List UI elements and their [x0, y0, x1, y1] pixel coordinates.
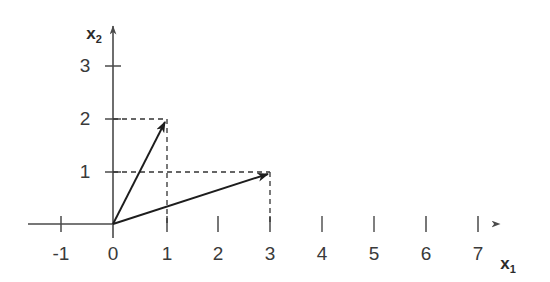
x-tick-label-6: 6	[421, 243, 432, 264]
x-tick-label-neg1: -1	[53, 243, 70, 264]
x-axis-label-subscript: 1	[510, 263, 516, 275]
y-tick-label-3: 3	[80, 55, 91, 76]
x-tick-label-2: 2	[213, 243, 224, 264]
vector-3-1	[113, 174, 268, 224]
projection-guides-group	[113, 119, 270, 224]
x-axis-label: x1	[500, 254, 516, 274]
vector-1-2	[113, 122, 165, 224]
y-tick-label-2: 2	[80, 108, 91, 129]
x-tick-label-7: 7	[473, 243, 484, 264]
x-tick-label-0: 0	[108, 243, 119, 264]
y-tick-label-1: 1	[80, 161, 91, 182]
y-axis-label-subscript: 2	[96, 33, 102, 45]
x-tick-label-1: 1	[162, 243, 173, 264]
x-tick-label-4: 4	[317, 243, 328, 264]
vector-plot-canvas: 3 2 1 x2 -1 0 1 2 3 4 5 6 7	[0, 0, 550, 282]
y-axis-group: 3 2 1 x2	[80, 24, 121, 238]
vector-diagram-figure: 3 2 1 x2 -1 0 1 2 3 4 5 6 7	[0, 0, 550, 282]
x-tick-label-5: 5	[369, 243, 380, 264]
x-axis-group: -1 0 1 2 3 4 5 6 7 x1	[28, 216, 516, 275]
vectors-group	[113, 122, 268, 224]
x-tick-label-3: 3	[265, 243, 276, 264]
y-axis-label: x2	[86, 24, 102, 44]
